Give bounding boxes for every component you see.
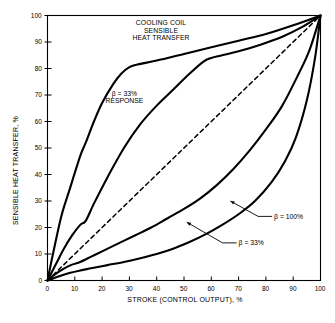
y-tick-label: 50 <box>35 144 42 151</box>
x-tick-label: 40 <box>153 285 160 292</box>
y-tick-label: 90 <box>35 38 42 45</box>
x-tick-label: 30 <box>126 285 133 292</box>
x-tick-label: 20 <box>98 285 105 292</box>
y-tick-label: 20 <box>35 224 42 231</box>
y-axis-label: SENSIBLE HEAT TRANSFER, % <box>12 116 20 225</box>
x-axis-label: STROKE (CONTROL OUTPUT), % <box>100 296 270 304</box>
y-tick-label: 60 <box>35 118 42 125</box>
x-tick-label: 10 <box>71 285 78 292</box>
chart-figure: COOLING COIL SENSIBLE HEAT TRANSFER STRO… <box>0 0 335 323</box>
beta-100-label: β = 100% <box>274 213 303 221</box>
chart-title: COOLING COIL SENSIBLE HEAT TRANSFER <box>106 19 216 42</box>
x-tick-label: 60 <box>207 285 214 292</box>
x-tick-label: 80 <box>262 285 269 292</box>
y-tick-label: 40 <box>35 171 42 178</box>
y-tick-label: 100 <box>31 12 42 19</box>
x-tick-label: 50 <box>180 285 187 292</box>
y-tick-label: 10 <box>35 250 42 257</box>
x-tick-label: 70 <box>235 285 242 292</box>
x-tick-label: 0 <box>46 285 50 292</box>
y-tick-label: 80 <box>35 65 42 72</box>
chart-plot-area <box>0 0 335 323</box>
y-tick-label: 0 <box>39 277 43 284</box>
beta-33-response-label: β = 33% RESPONSE <box>106 90 144 105</box>
x-tick-label: 100 <box>315 285 326 292</box>
y-tick-label: 70 <box>35 91 42 98</box>
x-tick-label: 90 <box>289 285 296 292</box>
y-tick-label: 30 <box>35 197 42 204</box>
beta-33-label: β = 33% <box>239 239 264 247</box>
